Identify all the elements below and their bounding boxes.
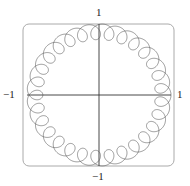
- y-axis-max-label: 1: [96, 7, 102, 18]
- x-axis-max-label: 1: [177, 89, 183, 100]
- x-axis-min-label: −1: [3, 89, 15, 100]
- y-axis-min-label: −1: [92, 171, 104, 182]
- parametric-plot: [0, 0, 190, 186]
